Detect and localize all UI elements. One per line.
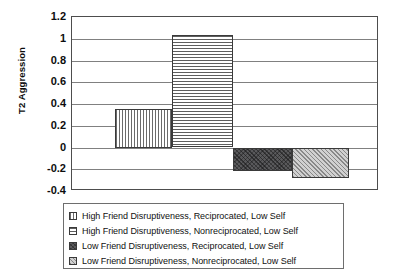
legend-item-label: High Friend Disruptiveness, Reciprocated… bbox=[82, 211, 285, 221]
y-axis-tick-label: 0.2 bbox=[28, 119, 66, 131]
y-axis-tick-label: 0.6 bbox=[28, 75, 66, 87]
y-axis-tick-label: 0.4 bbox=[28, 97, 66, 109]
y-axis-tick-label: 1 bbox=[28, 32, 66, 44]
legend-item-3: Low Friend Disruptiveness, Reciprocated,… bbox=[69, 238, 337, 253]
y-axis-title: T2 Aggression bbox=[16, 33, 27, 129]
y-axis-tick-label: 0.8 bbox=[28, 54, 66, 66]
bar-4 bbox=[292, 148, 349, 178]
bar-chart: T2 Aggression 1.210.80.60.40.20-0.2-0.4 … bbox=[0, 0, 408, 278]
chart-legend: High Friend Disruptiveness, Reciprocated… bbox=[63, 203, 344, 269]
bars-layer bbox=[72, 17, 377, 189]
bar-3 bbox=[233, 148, 292, 172]
legend-swatch-icon bbox=[69, 212, 77, 220]
legend-item-2: High Friend Disruptiveness, Nonreciproca… bbox=[69, 223, 337, 238]
plot-area bbox=[71, 16, 378, 190]
y-axis-tick-label: -0.2 bbox=[28, 162, 66, 174]
y-axis-tick-labels: 1.210.80.60.40.20-0.2-0.4 bbox=[28, 16, 66, 190]
y-axis-tick-label: 0 bbox=[28, 141, 66, 153]
legend-swatch-icon bbox=[69, 257, 77, 265]
bar-2 bbox=[172, 35, 233, 147]
legend-item-1: High Friend Disruptiveness, Reciprocated… bbox=[69, 208, 337, 223]
y-axis-tick-label: 1.2 bbox=[28, 10, 66, 22]
legend-swatch-icon bbox=[69, 227, 77, 235]
legend-item-4: Low Friend Disruptiveness, Nonreciprocat… bbox=[69, 253, 337, 268]
legend-item-label: Low Friend Disruptiveness, Reciprocated,… bbox=[82, 241, 283, 251]
bar-1 bbox=[115, 109, 172, 147]
legend-item-label: Low Friend Disruptiveness, Nonreciprocat… bbox=[82, 256, 296, 266]
legend-item-label: High Friend Disruptiveness, Nonreciproca… bbox=[82, 226, 298, 236]
y-axis-tick-label: -0.4 bbox=[28, 184, 66, 196]
legend-swatch-icon bbox=[69, 242, 77, 250]
